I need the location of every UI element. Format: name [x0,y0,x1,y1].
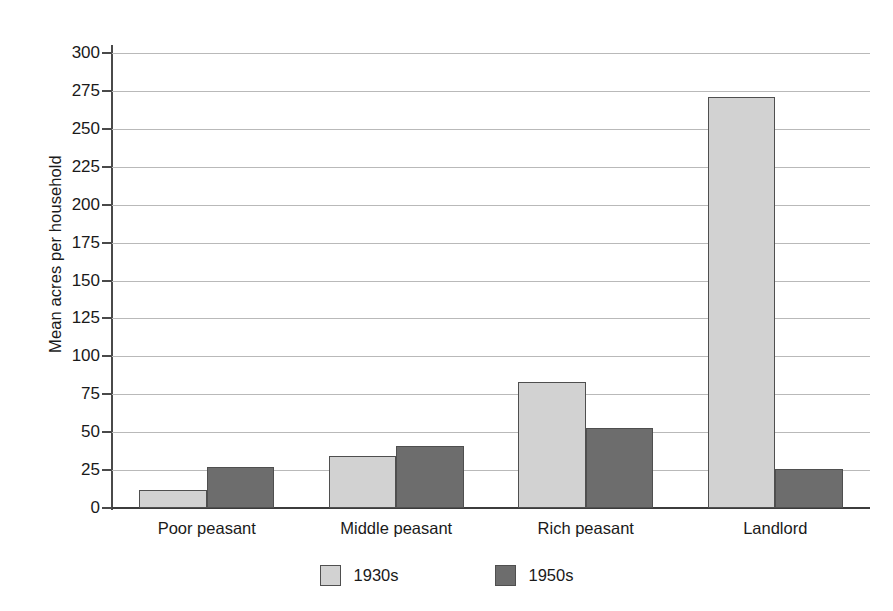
y-axis-tick-label: 125 [72,309,100,326]
y-axis-tick-mark [102,507,111,509]
x-axis-category-label: Landlord [681,516,871,540]
x-axis-category-label: Poor peasant [112,516,302,540]
y-axis-tick-label: 200 [72,196,100,213]
y-axis-tick-label: 150 [72,272,100,289]
chart-legend: 1930s1950s [0,558,893,592]
x-axis-category-label: Rich peasant [491,516,681,540]
legend-entry-1950s: 1950s [495,565,574,586]
y-axis-tick-label: 225 [72,158,100,175]
legend-label: 1950s [529,567,574,584]
y-axis-tick-mark [102,128,111,130]
legend-label: 1930s [354,567,399,584]
y-axis-tick-mark [102,280,111,282]
x-axis-category-labels: Poor peasantMiddle peasantRich peasantLa… [112,516,870,542]
gridline [112,91,870,92]
y-axis-tick-label: 175 [72,234,100,251]
bar-landlord-1950s [775,469,843,508]
y-axis-tick-label: 300 [72,44,100,61]
y-axis-tick-label: 100 [72,347,100,364]
legend-entry-1930s: 1930s [320,565,399,586]
y-axis-tick-mark [102,317,111,319]
y-axis-tick-mark [102,393,111,395]
y-axis-tick-mark [102,431,111,433]
bar-landlord-1930s [708,97,776,508]
bar-rich-peasant-1950s [586,428,654,508]
y-axis-tick-mark [102,204,111,206]
y-axis-tick-label: 250 [72,120,100,137]
legend-swatch-icon [495,565,516,586]
y-axis-tick-label: 75 [81,385,100,402]
plot-area [112,53,870,508]
bar-rich-peasant-1930s [518,382,586,508]
y-axis-tick-label: 275 [72,82,100,99]
bar-middle-peasant-1950s [396,446,464,508]
y-axis-tick-mark [102,469,111,471]
x-axis-category-label: Middle peasant [302,516,492,540]
bar-middle-peasant-1930s [329,456,397,508]
bar-chart: Mean acres per household 300275250225200… [0,0,893,611]
y-axis-tick-mark [102,355,111,357]
bar-poor-peasant-1950s [207,467,275,508]
gridline [112,53,870,54]
y-axis-tick-label: 25 [81,461,100,478]
y-axis-tick-mark [102,166,111,168]
y-axis-tick-mark [102,90,111,92]
legend-swatch-icon [320,565,341,586]
y-axis-tick-labels: 3002752502252001751501251007550250 [46,53,100,508]
y-axis-tick-mark [102,242,111,244]
y-axis-tick-label: 50 [81,423,100,440]
y-axis-tick-label: 0 [91,499,100,516]
bar-poor-peasant-1930s [139,490,207,508]
y-axis-tick-mark [102,52,111,54]
